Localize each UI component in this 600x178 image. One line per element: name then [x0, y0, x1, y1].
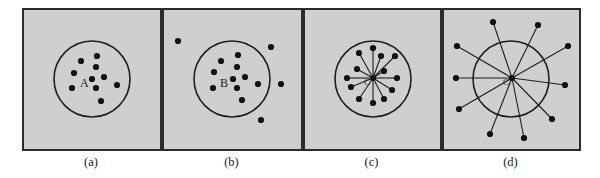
data-point [234, 85, 240, 91]
data-point [78, 58, 84, 64]
data-point [211, 69, 217, 75]
data-point [381, 96, 387, 102]
data-point [562, 82, 568, 88]
data-point [101, 74, 107, 80]
data-point [456, 106, 462, 112]
data-point [230, 76, 236, 82]
data-point [521, 135, 527, 141]
data-point [535, 22, 541, 28]
panel-d: C(d) [443, 9, 580, 169]
panel-b: B(b) [163, 9, 302, 169]
data-point [255, 81, 261, 87]
center-label: C [364, 77, 370, 87]
data-point [98, 98, 104, 104]
data-point [549, 116, 555, 122]
data-point [93, 85, 99, 91]
data-point [487, 131, 493, 137]
panel-caption: (b) [224, 155, 239, 169]
data-point [394, 75, 400, 81]
center-label: C [503, 77, 509, 87]
data-point [381, 68, 387, 74]
hub-point [370, 75, 376, 81]
data-point [69, 85, 75, 91]
data-point [258, 117, 264, 123]
data-point [71, 70, 77, 76]
data-point [114, 82, 120, 88]
data-point [356, 50, 362, 56]
data-point [218, 58, 224, 64]
panel-caption: (d) [503, 155, 518, 169]
data-point [94, 53, 100, 59]
data-point [93, 64, 99, 70]
panel-a: A(a) [23, 9, 161, 169]
data-point [565, 43, 571, 49]
data-point [389, 87, 395, 93]
data-point [454, 43, 460, 49]
panel-caption: (c) [365, 155, 379, 169]
data-point [242, 74, 248, 80]
data-point [268, 44, 274, 50]
panel-caption: (a) [84, 155, 98, 169]
data-point [490, 19, 496, 25]
data-point [370, 45, 376, 51]
data-point [370, 100, 376, 106]
panels-layer: A(a)B(b)C(c)C(d) [23, 9, 580, 169]
data-point [378, 53, 384, 59]
center-label: A [80, 76, 89, 90]
data-point [175, 38, 181, 44]
figure: A(a)B(b)C(c)C(d) [0, 0, 600, 178]
data-point [210, 85, 216, 91]
data-point [344, 75, 350, 81]
data-point [278, 81, 284, 87]
data-point [235, 52, 241, 58]
data-point [348, 84, 354, 90]
data-point [356, 96, 362, 102]
data-point [234, 64, 240, 70]
data-point [89, 76, 95, 82]
center-label: B [220, 76, 228, 90]
data-point [354, 66, 360, 72]
panel-c: C(c) [304, 9, 441, 169]
data-point [392, 53, 398, 59]
data-point [453, 75, 459, 81]
hub-point [509, 75, 515, 81]
data-point [239, 97, 245, 103]
